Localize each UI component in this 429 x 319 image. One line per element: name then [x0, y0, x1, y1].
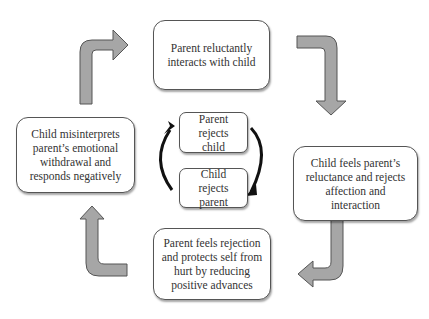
- node-text: Parent feels rejection and protects self…: [160, 236, 264, 292]
- node-parent-rejects-child: Parent rejects child: [179, 112, 248, 153]
- outer-arrow-top-to-right-icon: [297, 36, 346, 115]
- node-text: Child rejects parent: [186, 167, 241, 209]
- node-child-rejects-parent: Child rejects parent: [179, 168, 248, 208]
- node-parent-reluctantly-interacts: Parent reluctantly interacts with child: [153, 20, 270, 90]
- node-child-misinterprets: Child misinterprets parent’s emotional w…: [16, 117, 135, 193]
- outer-arrow-right-to-bottom-icon: [298, 213, 343, 287]
- node-parent-feels-rejection: Parent feels rejection and protects self…: [153, 228, 271, 300]
- node-text: Child feels parent’s reluctance and reje…: [300, 156, 411, 212]
- node-text: Child misinterprets parent’s emotional w…: [23, 127, 128, 183]
- node-text: Parent rejects child: [186, 112, 241, 154]
- inner-arrow-right-icon: [251, 128, 262, 192]
- node-text: Parent reluctantly interacts with child: [160, 41, 263, 69]
- outer-arrow-left-to-top-icon: [80, 30, 128, 104]
- inner-arrow-left-icon: [160, 130, 172, 190]
- outer-arrow-bottom-to-left-icon: [80, 206, 127, 276]
- node-child-feels-reluctance: Child feels parent’s reluctance and reje…: [293, 146, 418, 221]
